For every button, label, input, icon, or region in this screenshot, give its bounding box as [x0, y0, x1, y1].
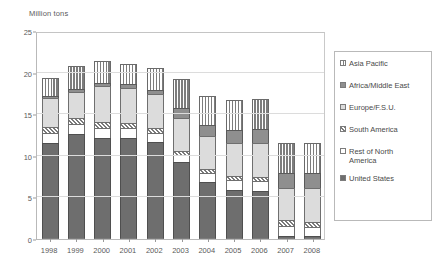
- bar-segment[interactable]: [147, 128, 164, 133]
- bar-segment[interactable]: [226, 180, 243, 190]
- y-axis-tick-mark: [33, 73, 36, 74]
- bar-segment[interactable]: [42, 143, 59, 239]
- x-axis-tick-mark: [234, 239, 235, 242]
- bar-segment[interactable]: [68, 89, 85, 91]
- bar-segment[interactable]: [252, 143, 269, 177]
- x-axis-tick-label: 2002: [146, 246, 163, 255]
- bar-stack[interactable]: [94, 61, 111, 239]
- x-axis-tick-label: 2004: [198, 246, 215, 255]
- bar-segment[interactable]: [173, 162, 190, 239]
- bar-segment[interactable]: [226, 100, 243, 130]
- bar-segment[interactable]: [147, 90, 164, 94]
- bar-segment[interactable]: [226, 130, 243, 142]
- legend-item[interactable]: Asia Pacific: [340, 59, 431, 68]
- bar-stack[interactable]: [42, 78, 59, 239]
- bar-segment[interactable]: [68, 124, 85, 134]
- legend-swatch-icon: [340, 82, 346, 88]
- bar-segment[interactable]: [42, 127, 59, 133]
- bar-segment[interactable]: [252, 181, 269, 191]
- bar-segment[interactable]: [147, 94, 164, 127]
- bar-segment[interactable]: [94, 122, 111, 128]
- bar-segment[interactable]: [147, 142, 164, 239]
- legend-item-label: Asia Pacific: [349, 59, 388, 68]
- bar-stack[interactable]: [120, 64, 137, 239]
- x-axis-tick-mark: [313, 239, 314, 242]
- bar-segment[interactable]: [278, 143, 295, 174]
- bar-stack[interactable]: [173, 79, 190, 239]
- bar-segment[interactable]: [68, 134, 85, 239]
- x-axis-tick-label: 2003: [172, 246, 189, 255]
- bar-segment[interactable]: [304, 143, 321, 173]
- legend-swatch-icon: [340, 126, 346, 132]
- bar-segment[interactable]: [199, 182, 216, 239]
- bar-segment[interactable]: [278, 220, 295, 226]
- bar-segment[interactable]: [278, 226, 295, 236]
- bar-segment[interactable]: [199, 136, 216, 169]
- bar-segment[interactable]: [252, 129, 269, 142]
- bar-segment[interactable]: [42, 96, 59, 98]
- bar-segment[interactable]: [68, 66, 85, 89]
- bar-segment[interactable]: [226, 176, 243, 180]
- bar-segment[interactable]: [304, 173, 321, 188]
- bar-segment[interactable]: [120, 64, 137, 84]
- bar-stack[interactable]: [226, 100, 243, 239]
- bar-segment[interactable]: [304, 188, 321, 221]
- bar-stack[interactable]: [147, 68, 164, 239]
- bar-segment[interactable]: [226, 143, 243, 176]
- bar-segment[interactable]: [147, 133, 164, 142]
- x-axis-tick-label: 2000: [93, 246, 110, 255]
- legend: Asia PacificAfrica/Middle EastEurope/F.S…: [334, 51, 432, 221]
- bar-stack[interactable]: [278, 143, 295, 239]
- bar-segment[interactable]: [42, 78, 59, 95]
- bar-stack[interactable]: [199, 96, 216, 239]
- gridline: [37, 72, 324, 73]
- bar-segment[interactable]: [252, 99, 269, 129]
- bar-segment[interactable]: [199, 96, 216, 125]
- bar-segment[interactable]: [278, 188, 295, 220]
- legend-item[interactable]: Africa/Middle East: [340, 81, 431, 90]
- legend-item[interactable]: Europe/F.S.U.: [340, 103, 431, 112]
- y-axis-tick-mark: [33, 156, 36, 157]
- bar-stack[interactable]: [68, 66, 85, 239]
- legend-item-label: United States: [349, 174, 394, 183]
- bar-segment[interactable]: [304, 222, 321, 227]
- bar-segment[interactable]: [94, 83, 111, 86]
- bar-segment[interactable]: [252, 177, 269, 181]
- legend-swatch-icon: [340, 148, 346, 154]
- bar-segment[interactable]: [94, 138, 111, 240]
- bar-segment[interactable]: [120, 84, 137, 87]
- bar-segment[interactable]: [173, 79, 190, 108]
- bar-stack[interactable]: [304, 143, 321, 239]
- legend-item[interactable]: Rest of North America: [340, 147, 431, 165]
- bar-segment[interactable]: [173, 118, 190, 151]
- legend-item[interactable]: United States: [340, 174, 431, 183]
- legend-item[interactable]: South America: [340, 125, 431, 134]
- x-axis-tick-label: 2005: [225, 246, 242, 255]
- y-axis-tick-mark: [33, 115, 36, 116]
- bar-segment[interactable]: [120, 88, 137, 123]
- gridline: [37, 113, 324, 114]
- bar-stack[interactable]: [252, 99, 269, 239]
- bar-segment[interactable]: [94, 128, 111, 138]
- legend-item-label: Rest of North America: [349, 147, 393, 165]
- bar-segment[interactable]: [199, 125, 216, 136]
- x-axis-tick-label: 2008: [304, 246, 321, 255]
- x-axis-tick-mark: [260, 239, 261, 242]
- bar-segment[interactable]: [68, 118, 85, 125]
- bar-segment[interactable]: [120, 123, 137, 129]
- legend-item-label: Africa/Middle East: [349, 81, 409, 90]
- bar-segment[interactable]: [199, 169, 216, 173]
- bar-segment[interactable]: [304, 227, 321, 236]
- legend-swatch-icon: [340, 104, 346, 110]
- bar-segment[interactable]: [94, 86, 111, 122]
- bar-segment[interactable]: [278, 173, 295, 188]
- bar-segment[interactable]: [120, 138, 137, 239]
- bar-segment[interactable]: [199, 173, 216, 182]
- bar-segment[interactable]: [252, 191, 269, 239]
- bar-segment[interactable]: [173, 155, 190, 162]
- x-axis-tick-mark: [50, 239, 51, 242]
- x-axis-tick-mark: [129, 239, 130, 242]
- x-axis-tick-label: 1998: [41, 246, 58, 255]
- bar-segment[interactable]: [42, 133, 59, 144]
- bar-segment[interactable]: [120, 128, 137, 138]
